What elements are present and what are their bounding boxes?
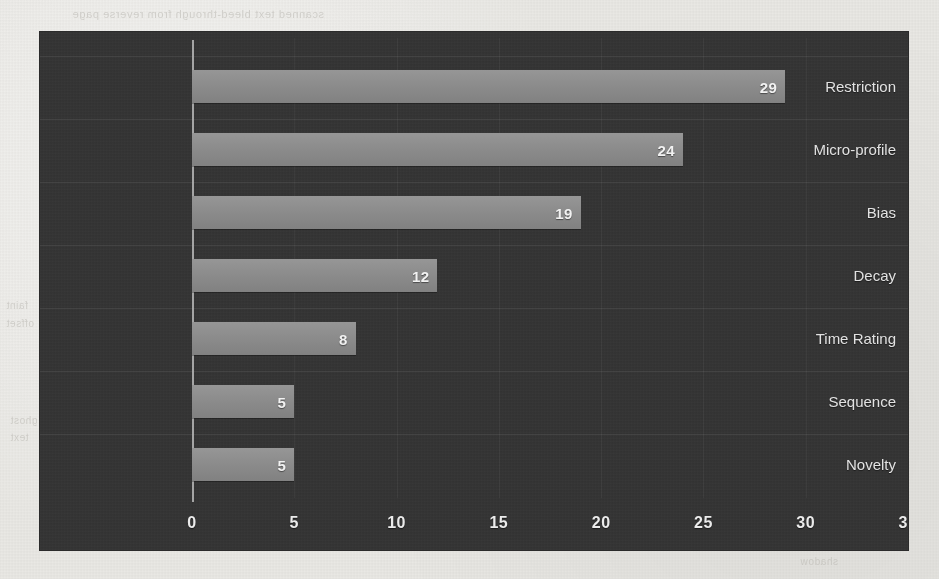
gridline-vertical — [499, 38, 500, 498]
bar-row[interactable]: 29 — [192, 70, 785, 103]
bar-value-label: 12 — [412, 267, 430, 284]
bleed-through-text-bottom-right: shadow — [800, 556, 838, 567]
bar-row[interactable]: 19 — [192, 196, 581, 229]
category-label: Bias — [867, 196, 896, 229]
bar[interactable]: 12 — [192, 259, 437, 292]
plot-area: 29241912855 RestrictionMicro-profileBias… — [192, 38, 908, 498]
x-tick-label: 15 — [489, 514, 508, 532]
gridline-horizontal — [40, 308, 908, 309]
scanned-page: scanned text bleed-through from reverse … — [0, 0, 939, 579]
gridline-vertical — [703, 38, 704, 498]
gridline-horizontal — [40, 434, 908, 435]
bar[interactable]: 24 — [192, 133, 683, 166]
bar-value-label: 5 — [278, 456, 287, 473]
x-axis-tick-labels: 05101520253035 — [192, 514, 908, 542]
category-label: Sequence — [828, 385, 896, 418]
x-tick-label: 30 — [796, 514, 815, 532]
bar-value-label: 19 — [555, 204, 573, 221]
x-tick-label: 25 — [694, 514, 713, 532]
bleed-through-text-mid-left-2: offset — [6, 318, 34, 329]
category-label: Decay — [853, 259, 896, 292]
category-label: Time Rating — [816, 322, 896, 355]
bleed-through-text-mid-left-1: faint — [6, 300, 28, 311]
category-label: Micro-profile — [813, 133, 896, 166]
bar[interactable]: 29 — [192, 70, 785, 103]
bar-value-label: 5 — [278, 393, 287, 410]
gridline-vertical — [806, 38, 807, 498]
bleed-through-text-low-left-2: text — [10, 432, 29, 443]
gridline-horizontal — [40, 371, 908, 372]
x-tick-label: 20 — [592, 514, 611, 532]
bar-value-label: 24 — [657, 141, 675, 158]
gridline-horizontal — [40, 119, 908, 120]
x-tick-label: 10 — [387, 514, 406, 532]
bleed-through-text-top: scanned text bleed-through from reverse … — [72, 8, 324, 20]
bar-row[interactable]: 5 — [192, 448, 294, 481]
x-tick-label: 35 — [899, 514, 908, 532]
bar-chart-panel: 29241912855 RestrictionMicro-profileBias… — [40, 32, 908, 550]
bar-row[interactable]: 12 — [192, 259, 437, 292]
bar-row[interactable]: 24 — [192, 133, 683, 166]
gridline-vertical — [601, 38, 602, 498]
gridline-horizontal — [40, 182, 908, 183]
bar[interactable]: 8 — [192, 322, 356, 355]
x-tick-label: 0 — [187, 514, 196, 532]
bar-row[interactable]: 5 — [192, 385, 294, 418]
bar-value-label: 8 — [339, 330, 348, 347]
bar-row[interactable]: 8 — [192, 322, 356, 355]
bleed-through-text-low-left-1: ghost — [10, 415, 37, 426]
bar[interactable]: 19 — [192, 196, 581, 229]
category-label: Novelty — [846, 448, 896, 481]
bar[interactable]: 5 — [192, 385, 294, 418]
bar[interactable]: 5 — [192, 448, 294, 481]
bar-value-label: 29 — [760, 78, 778, 95]
gridline-horizontal — [40, 245, 908, 246]
x-tick-label: 5 — [290, 514, 299, 532]
category-label: Restriction — [825, 70, 896, 103]
gridline-horizontal — [40, 56, 908, 57]
